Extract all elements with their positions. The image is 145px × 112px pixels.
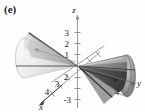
z-tick-3: 3 [65, 28, 70, 38]
figure-panel: (e) [0, 0, 145, 112]
x-tick-3: 3 [55, 79, 60, 89]
z-tick-minus-3: -3 [64, 95, 72, 105]
x-axis-label: x [38, 102, 43, 112]
z-axis-label: z [71, 5, 76, 15]
z-tick-1: 1 [65, 50, 70, 60]
y-tick-4: 4 [115, 87, 120, 97]
z-tick-2: 2 [65, 39, 70, 49]
x-tick-2: 2 [64, 72, 69, 82]
coordinate-plot: z x y 3 2 1 -3 2 3 4 4 [0, 0, 145, 112]
y-axis-label: y [136, 78, 141, 88]
x-tick-4: 4 [45, 87, 50, 97]
z-axis-arrow [76, 15, 80, 20]
